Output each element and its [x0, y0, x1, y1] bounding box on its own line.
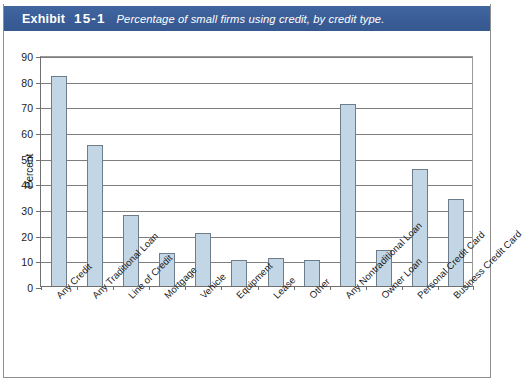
- exhibit-number: 15-1: [74, 11, 105, 26]
- x-axis-tick: [294, 286, 295, 290]
- gridline: [41, 83, 472, 84]
- gridline: [41, 185, 472, 186]
- exhibit-caption: Percentage of small firms using credit, …: [117, 13, 385, 25]
- x-axis-tick: [221, 286, 222, 290]
- y-axis-tick: [36, 237, 41, 238]
- y-axis-tick: [36, 185, 41, 186]
- gridline: [41, 108, 472, 109]
- x-axis-tick: [473, 286, 474, 290]
- y-axis-tick: [36, 83, 41, 84]
- x-axis-tick: [149, 286, 150, 290]
- y-axis-tick: [36, 160, 41, 161]
- y-axis-tick-label: 30: [21, 205, 33, 217]
- y-axis-tick-label: 10: [21, 256, 33, 268]
- y-axis-tick-label: 40: [21, 179, 33, 191]
- x-axis-tick: [258, 286, 259, 290]
- x-axis-tick: [402, 286, 403, 290]
- gridline: [41, 57, 472, 58]
- plot-area: 0102030405060708090 Any CreditAny Tradit…: [40, 56, 473, 287]
- y-axis-tick: [36, 134, 41, 135]
- exhibit-label: Exhibit: [22, 12, 65, 26]
- y-axis-tick: [36, 57, 41, 58]
- exhibit-header-text: Exhibit 15-1 Percentage of small firms u…: [22, 6, 384, 31]
- bar: [51, 76, 67, 286]
- gridline: [41, 160, 472, 161]
- x-axis-tick: [77, 286, 78, 290]
- x-axis-tick: [113, 286, 114, 290]
- x-axis-tick: [438, 286, 439, 290]
- y-axis-tick-label: 20: [21, 231, 33, 243]
- chart-panel: Percent 0102030405060708090 Any CreditAn…: [4, 32, 490, 377]
- y-axis-tick-label: 90: [21, 51, 33, 63]
- y-axis-tick-label: 80: [21, 77, 33, 89]
- y-axis-tick: [36, 108, 41, 109]
- x-axis-tick: [366, 286, 367, 290]
- y-axis-tick-label: 0: [27, 282, 33, 294]
- x-axis-tick: [185, 286, 186, 290]
- y-axis-tick-label: 50: [21, 154, 33, 166]
- x-axis-tick: [41, 286, 42, 290]
- y-axis-tick: [36, 262, 41, 263]
- gridline: [41, 134, 472, 135]
- x-axis-tick: [330, 286, 331, 290]
- bar: [195, 233, 211, 286]
- gridline: [41, 211, 472, 212]
- y-axis-tick: [36, 211, 41, 212]
- bar: [340, 104, 356, 286]
- exhibit-header-band: Exhibit 15-1 Percentage of small firms u…: [4, 6, 490, 31]
- y-axis-tick-label: 60: [21, 128, 33, 140]
- y-axis-tick-label: 70: [21, 102, 33, 114]
